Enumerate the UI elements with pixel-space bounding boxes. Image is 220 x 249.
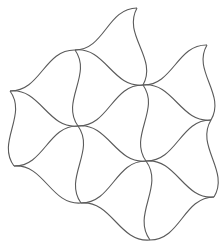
tile-edge [14, 166, 81, 203]
tile-edge [78, 85, 143, 126]
tile-edge [203, 45, 215, 120]
tile-edge [146, 120, 211, 161]
tile-edge [146, 161, 214, 197]
tile-edge [207, 120, 219, 197]
tile-edge [75, 126, 83, 203]
tile-edges [8, 8, 218, 240]
tile-edge [144, 161, 152, 240]
tile-edge [81, 161, 146, 203]
tile-edge [143, 85, 211, 120]
tile-edge [75, 50, 143, 85]
tiling-figure [0, 0, 220, 249]
tile-edge [150, 197, 214, 240]
tile-edge [141, 85, 149, 161]
tile-edge [143, 45, 207, 85]
tile-edge [81, 203, 150, 240]
tile-edge [133, 8, 146, 85]
tile-edge [75, 8, 137, 50]
tile-edge [14, 126, 78, 166]
tile-edge [10, 91, 78, 126]
tile-edge [10, 50, 75, 91]
tile-edge [8, 91, 15, 166]
tile-edge [73, 50, 81, 126]
tile-edge [78, 126, 146, 161]
